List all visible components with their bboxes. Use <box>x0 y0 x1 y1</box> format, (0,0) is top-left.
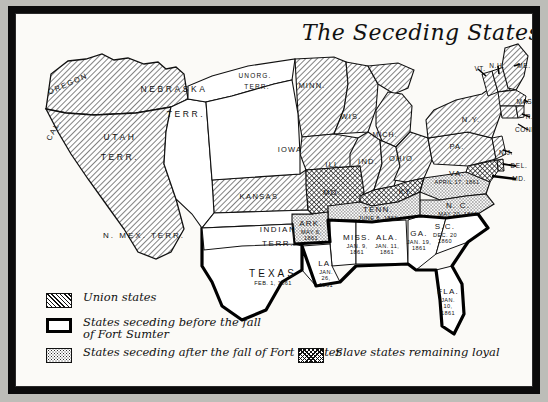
state-abbrev: ARK. <box>299 219 322 229</box>
state-callout-ME.: ME. <box>517 62 530 71</box>
territory-label: INDIAN <box>260 225 297 235</box>
state-abbrev: VA. <box>435 169 480 179</box>
state-secession-before-sumter: LA.JAN.26,1861 <box>318 259 334 288</box>
state-secession-before-sumter: S.C.DEC. 201860 <box>433 222 457 245</box>
state-abbrev: TEXAS <box>249 268 297 280</box>
legend-swatch-seceded-after <box>46 348 72 363</box>
state-secession-after-sumter: VA.APRIL 17, 1861 <box>435 169 480 185</box>
map-frame-inner: The Seceding States <box>15 13 533 387</box>
state-abbrev: TENN. <box>358 205 398 215</box>
map-page: The Seceding States <box>0 0 548 402</box>
state-abbrev: ALA. <box>375 233 399 243</box>
state-label-MO.: MO. <box>323 188 341 198</box>
map-frame-outer: The Seceding States <box>8 6 540 394</box>
state-label-PA.: PA. <box>449 142 464 152</box>
legend-swatch-seceded-before <box>46 318 72 333</box>
secession-date: 1861 <box>343 249 371 255</box>
state-callout-CONN.: CONN. <box>515 126 533 135</box>
legend-item-slave-loyal: Slave states remaining loyal <box>298 347 500 363</box>
territory-label: N. MEX. TERR. <box>103 231 185 241</box>
territory-label: TERR. <box>167 109 206 120</box>
secession-date: JUNE 8, 1861 <box>358 215 398 221</box>
state-secession-before-sumter: MISS.JAN. 9,1861 <box>343 233 371 256</box>
state-label-ILL.: ILL. <box>325 160 342 170</box>
state-abbrev: LA. <box>318 259 334 269</box>
legend-swatch-slave-loyal <box>298 348 324 363</box>
legend-label-seceded-before: States seceding before the fall of Fort … <box>83 317 261 340</box>
secession-date: 1860 <box>433 238 457 244</box>
state-abbrev: N. C. <box>438 201 478 211</box>
territory-label: UTAH <box>104 132 137 143</box>
secession-date: APRIL 17, 1861 <box>435 179 480 185</box>
territory-label: UNORG. <box>238 72 271 81</box>
state-abbrev: FLA. <box>437 287 459 297</box>
state-callout-R.I.: R.I. <box>526 113 533 122</box>
state-secession-before-sumter: ALA.JAN. 11,1861 <box>375 233 399 256</box>
state-label-MINN.: MINN. <box>298 81 325 91</box>
state-abbrev: MISS. <box>343 233 371 243</box>
state-secession-after-sumter: N. C.MAY 20, 1861 <box>438 201 478 217</box>
legend-item-seceded-before: States seceding before the fall of Fort … <box>46 317 261 340</box>
territory-label: TERR. <box>262 239 294 249</box>
state-label-OHIO: OHIO <box>389 154 413 164</box>
secession-date: 1861 <box>407 245 432 251</box>
state-secession-before-sumter: GA.JAN. 19,1861 <box>407 229 432 252</box>
state-label-KANSAS: KANSAS <box>240 192 279 202</box>
state-callout-MASS.: MASS. <box>516 98 533 107</box>
legend-item-seceded-after: States seceding after the fall of Fort S… <box>46 347 341 363</box>
state-secession-after-sumter: ARK.MAY 6,1861 <box>299 219 322 242</box>
state-callout-VT.: VT. <box>474 65 485 74</box>
state-callout-N.J.: N.J. <box>499 149 513 158</box>
state-label-IND.: IND. <box>358 157 378 167</box>
legend-item-union: Union states <box>46 292 156 308</box>
state-secession-after-sumter: TENN.JUNE 8, 1861 <box>358 205 398 221</box>
legend-swatch-union <box>46 293 72 308</box>
legend-label-slave-loyal: Slave states remaining loyal <box>335 347 500 359</box>
secession-date: 1861 <box>318 282 334 288</box>
state-abbrev: S.C. <box>433 222 457 232</box>
secession-date: 1861 <box>437 310 459 316</box>
secession-date: MAY 20, 1861 <box>438 211 478 217</box>
state-secession-before-sumter: FLA.JAN.10,1861 <box>437 287 459 316</box>
state-label-WIS.: WIS. <box>340 112 361 122</box>
territory-label: NEBRASKA <box>140 84 207 95</box>
legend-label-union: Union states <box>83 292 156 304</box>
territory-label: TERR. <box>244 83 270 92</box>
secession-date: 1861 <box>299 235 322 241</box>
secession-date: 1861 <box>375 249 399 255</box>
state-label-N.Y.: N.Y. <box>462 115 480 125</box>
state-callout-MD.: MD. <box>512 175 526 184</box>
state-secession-before-sumter: TEXASFEB. 1, 1861 <box>249 268 297 286</box>
state-label-KY.: KY. <box>399 187 414 197</box>
state-callout-N.H.: N.H. <box>489 62 504 71</box>
state-abbrev: GA. <box>407 229 432 239</box>
state-label-IOWA: IOWA <box>278 145 303 155</box>
state-label-MICH.: MICH. <box>373 130 398 139</box>
state-callout-DEL.: DEL. <box>511 162 528 171</box>
secession-date: FEB. 1, 1861 <box>249 280 297 286</box>
territory-label: TERR. <box>101 152 140 163</box>
